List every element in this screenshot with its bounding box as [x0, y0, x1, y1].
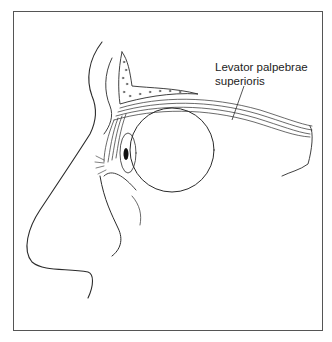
- anatomy-figure: Levator palpebrae superioris: [0, 0, 332, 342]
- label-leader-line: [0, 0, 332, 342]
